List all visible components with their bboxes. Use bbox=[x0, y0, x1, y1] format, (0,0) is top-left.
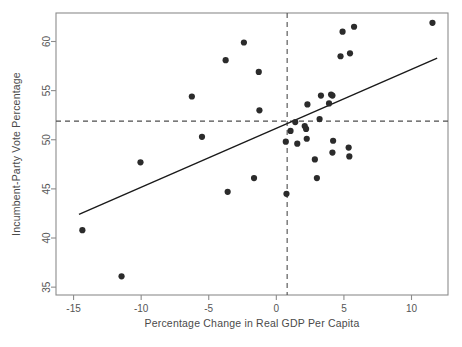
data-point bbox=[318, 92, 324, 98]
y-axis-label: Incumbent-Party Vote Percentage bbox=[10, 72, 22, 236]
data-point bbox=[429, 20, 435, 26]
x-tick-label: -10 bbox=[134, 303, 149, 314]
data-point bbox=[346, 153, 352, 159]
data-point bbox=[256, 69, 262, 75]
y-tick-label: 35 bbox=[42, 281, 53, 293]
data-point bbox=[223, 57, 229, 63]
data-point bbox=[79, 227, 85, 233]
plot-canvas: 354045505560 -15-10-50510 Percentage Cha… bbox=[0, 0, 462, 347]
data-point bbox=[292, 119, 298, 125]
x-tick-label: 10 bbox=[406, 303, 418, 314]
y-tick-label: 40 bbox=[42, 232, 53, 244]
data-point bbox=[283, 139, 289, 145]
x-axis-label: Percentage Change in Real GDP Per Capita bbox=[144, 317, 359, 329]
data-point bbox=[351, 24, 357, 30]
data-point bbox=[256, 107, 262, 113]
data-point bbox=[199, 134, 205, 140]
data-point bbox=[304, 101, 310, 107]
x-tick-label: 0 bbox=[274, 303, 280, 314]
data-point bbox=[118, 273, 124, 279]
data-point bbox=[329, 149, 335, 155]
data-point bbox=[346, 145, 352, 151]
data-point bbox=[314, 175, 320, 181]
data-point bbox=[330, 138, 336, 144]
data-point bbox=[339, 29, 345, 35]
data-point bbox=[294, 141, 300, 147]
data-point bbox=[137, 159, 143, 165]
data-point bbox=[347, 50, 353, 56]
data-point bbox=[312, 156, 318, 162]
data-point bbox=[326, 100, 332, 106]
y-tick-label: 55 bbox=[42, 85, 53, 97]
data-point bbox=[283, 191, 289, 197]
data-point bbox=[304, 136, 310, 142]
data-point bbox=[225, 189, 231, 195]
data-point bbox=[189, 93, 195, 99]
y-tick-label: 50 bbox=[42, 134, 53, 146]
y-tick-label: 60 bbox=[42, 35, 53, 47]
data-point bbox=[303, 126, 309, 132]
x-tick-label: -15 bbox=[66, 303, 81, 314]
data-point bbox=[329, 92, 335, 98]
data-point bbox=[337, 53, 343, 59]
data-point bbox=[241, 39, 247, 45]
y-tick-label: 45 bbox=[42, 183, 53, 195]
x-tick-label: 5 bbox=[341, 303, 347, 314]
data-point bbox=[316, 116, 322, 122]
data-point bbox=[251, 175, 257, 181]
data-point bbox=[287, 128, 293, 134]
x-tick-label: -5 bbox=[204, 303, 213, 314]
scatter-plot-figure: 354045505560 -15-10-50510 Percentage Cha… bbox=[0, 0, 462, 347]
